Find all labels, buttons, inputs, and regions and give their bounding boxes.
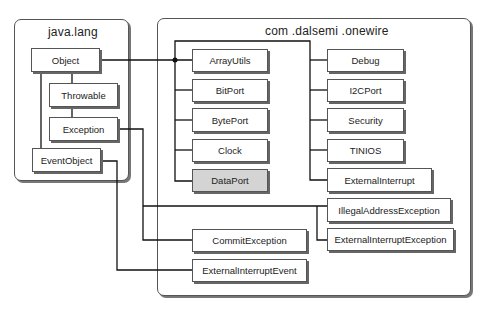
class-bit-port[interactable]: BitPort <box>192 79 268 102</box>
class-tinios[interactable]: TINIOS <box>327 139 404 162</box>
class-external-interrupt[interactable]: ExternalInterrupt <box>327 168 432 192</box>
class-illegal-address-exception[interactable]: IllegalAddressException <box>327 198 451 222</box>
class-i2c-port[interactable]: I2CPort <box>327 79 404 102</box>
class-throwable[interactable]: Throwable <box>49 83 118 107</box>
class-commit-exception[interactable]: CommitException <box>192 229 307 252</box>
class-event-object[interactable]: EventObject <box>32 148 101 172</box>
class-external-interrupt-event[interactable]: ExternalInterruptEvent <box>192 259 307 282</box>
class-object[interactable]: Object <box>31 48 100 72</box>
class-byte-port[interactable]: BytePort <box>192 108 268 132</box>
class-external-interrupt-exception[interactable]: ExternalInterruptException <box>327 228 454 251</box>
class-debug[interactable]: Debug <box>327 49 404 72</box>
class-security[interactable]: Security <box>327 108 404 132</box>
class-exception[interactable]: Exception <box>49 117 118 141</box>
class-data-port[interactable]: DataPort <box>192 169 268 192</box>
class-array-utils[interactable]: ArrayUtils <box>192 49 268 72</box>
class-clock[interactable]: Clock <box>192 139 268 162</box>
